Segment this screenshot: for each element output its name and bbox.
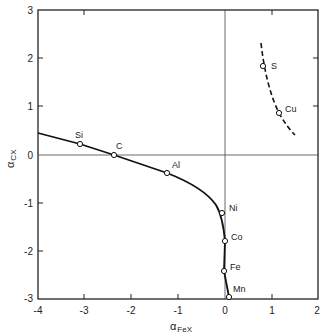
svg-text:-1: -1 bbox=[24, 198, 33, 209]
svg-text:Cu: Cu bbox=[285, 104, 297, 114]
point-c bbox=[111, 152, 116, 157]
svg-text:Mn: Mn bbox=[233, 284, 246, 294]
point-al bbox=[164, 170, 169, 175]
x-tick-labels: -4 -3 -2 -1 0 1 2 bbox=[34, 305, 321, 316]
svg-text:-1: -1 bbox=[174, 305, 183, 316]
svg-text:1: 1 bbox=[269, 305, 275, 316]
x-axis-label: αFeX bbox=[170, 320, 193, 334]
svg-text:0: 0 bbox=[27, 150, 33, 161]
point-mn bbox=[226, 294, 231, 299]
svg-text:-2: -2 bbox=[127, 305, 136, 316]
y-ticks bbox=[38, 58, 318, 251]
svg-text:1: 1 bbox=[27, 101, 33, 112]
main-curve bbox=[38, 133, 229, 297]
svg-text:S: S bbox=[271, 61, 277, 71]
svg-text:2: 2 bbox=[27, 53, 33, 64]
svg-text:-3: -3 bbox=[24, 293, 33, 304]
svg-text:Fe: Fe bbox=[230, 262, 241, 272]
point-ni bbox=[219, 210, 224, 215]
point-si bbox=[77, 141, 82, 146]
svg-text:2: 2 bbox=[314, 305, 320, 316]
plot-frame bbox=[38, 10, 318, 299]
svg-text:C: C bbox=[116, 141, 123, 151]
svg-text:0: 0 bbox=[222, 305, 228, 316]
svg-text:-3: -3 bbox=[80, 305, 89, 316]
point-s bbox=[260, 63, 265, 68]
svg-text:Si: Si bbox=[75, 130, 83, 140]
svg-text:Al: Al bbox=[172, 160, 180, 170]
svg-text:-2: -2 bbox=[24, 246, 33, 257]
data-points bbox=[77, 63, 281, 299]
svg-text:-4: -4 bbox=[34, 305, 43, 316]
svg-text:3: 3 bbox=[27, 5, 33, 16]
y-axis-label: αCX bbox=[4, 149, 18, 168]
point-co bbox=[222, 238, 227, 243]
svg-text:Ni: Ni bbox=[229, 203, 238, 213]
point-fe bbox=[221, 268, 226, 273]
dashed-curve bbox=[261, 43, 295, 135]
point-cu bbox=[276, 110, 281, 115]
y-tick-labels: 3 2 1 0 -1 -2 -3 bbox=[24, 5, 33, 304]
svg-text:Co: Co bbox=[231, 232, 243, 242]
point-labels: Si C Al Ni Co Fe Mn S Cu bbox=[75, 61, 297, 294]
chart: -4 -3 -2 -1 0 1 2 3 2 1 0 -1 -2 -3 αFeX … bbox=[0, 0, 326, 334]
